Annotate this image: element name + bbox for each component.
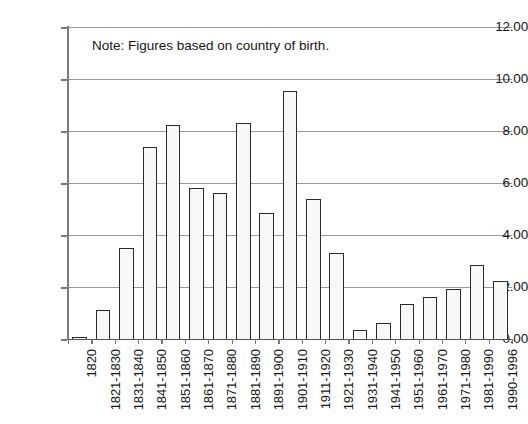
x-tick-label: 1871-1880 [225,349,238,410]
x-tick-mark [489,339,490,344]
x-tick-label: 1971-1980 [459,349,472,410]
x-tick-mark [208,339,209,344]
x-tick-label: 1841-1850 [155,349,168,410]
x-tick-mark [278,339,279,344]
x-tick-label: 1931-1940 [366,349,379,410]
bar [72,337,86,339]
x-tick-mark [442,339,443,344]
x-tick-label: 1820 [85,349,98,378]
x-tick-mark [512,339,513,344]
x-tick-label: 1851-1860 [179,349,192,410]
bar [353,330,367,339]
x-tick-label: 1891-1900 [272,349,285,410]
bar [189,188,203,339]
bar [259,213,273,339]
bar [96,310,110,339]
bar [283,91,297,339]
bar [400,304,414,339]
x-tick-mark [138,339,139,344]
x-tick-label: 1831-1840 [132,349,145,410]
bar [306,199,320,339]
chart-note: Note: Figures based on country of birth. [92,38,329,54]
x-tick-mark [161,339,162,344]
x-tick-label: 1941-1950 [389,349,402,410]
x-tick-mark [255,339,256,344]
x-tick-mark [395,339,396,344]
bar [236,123,250,339]
x-tick-mark [185,339,186,344]
x-tick-label: 1990-1996 [506,349,519,410]
x-tick-mark [419,339,420,344]
x-tick-label: 1911-1920 [319,349,332,409]
x-tick-mark [68,339,69,344]
x-tick-mark [325,339,326,344]
x-tick-mark [465,339,466,344]
bar-series [68,27,512,339]
x-tick-mark [302,339,303,344]
x-tick-mark [232,339,233,344]
x-tick-mark [348,339,349,344]
bar [143,147,157,339]
bar [166,125,180,340]
bar [493,281,507,340]
bar [423,297,437,339]
bar [119,248,133,339]
x-tick-mark [115,339,116,344]
x-tick-label: 1951-1960 [412,349,425,410]
x-tick-mark [372,339,373,344]
bar [213,193,227,339]
bar-chart: 0.002.004.006.008.0010.0012.00 18201821-… [0,0,528,424]
x-tick-label: 1881-1890 [249,349,262,410]
x-tick-label: 1981-1990 [482,349,495,410]
x-tick-label: 1901-1910 [296,349,309,410]
bar [376,323,390,339]
x-tick-label: 1821-1830 [109,349,122,410]
bar [329,253,343,339]
x-tick-label: 1921-1930 [342,349,355,410]
bar [446,289,460,339]
x-tick-label: 1861-1870 [202,349,215,410]
bar [470,265,484,339]
x-tick-label: 1961-1970 [436,349,449,410]
x-tick-mark [91,339,92,344]
